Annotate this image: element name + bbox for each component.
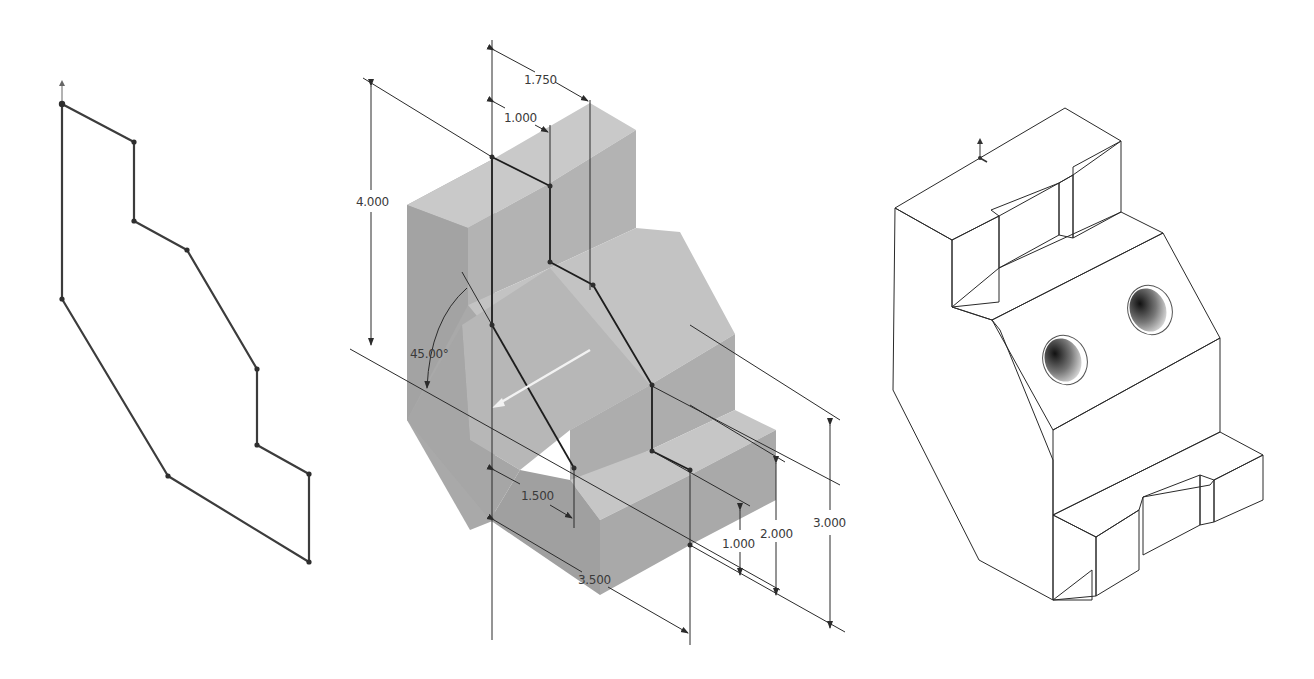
dim-width-top[interactable]: 1.750 — [524, 73, 557, 87]
dim-height-step1[interactable]: 1.000 — [722, 537, 755, 551]
origin-axis-icon — [59, 80, 65, 104]
dim-angle[interactable]: 45.00° — [410, 347, 449, 361]
preview-body — [407, 103, 776, 595]
origin-triad-icon — [977, 138, 987, 162]
dim-step-top[interactable]: 1.000 — [504, 111, 537, 125]
finished-part-panel — [893, 108, 1263, 600]
dim-height-left[interactable]: 4.000 — [356, 195, 389, 209]
dim-step-bottom[interactable]: 1.500 — [521, 489, 554, 503]
mounting-hole-right[interactable] — [1121, 279, 1179, 341]
cad-figure: 1.750 1.000 4.000 45.00° 1.500 3.500 1.0… — [0, 0, 1314, 679]
part-top-face — [895, 108, 1121, 240]
extrude-preview-panel: 1.750 1.000 4.000 45.00° 1.500 3.500 1.0… — [350, 40, 846, 645]
dim-height-step2[interactable]: 2.000 — [760, 527, 793, 541]
dim-height-right[interactable]: 3.000 — [813, 516, 846, 530]
sketch-vertices — [59, 101, 312, 565]
sketch-panel — [59, 80, 312, 565]
mounting-hole-left[interactable] — [1036, 329, 1094, 391]
part-left-face — [893, 208, 1092, 600]
sketch-profile[interactable] — [62, 104, 309, 562]
dim-width-bottom[interactable]: 3.500 — [578, 573, 611, 587]
